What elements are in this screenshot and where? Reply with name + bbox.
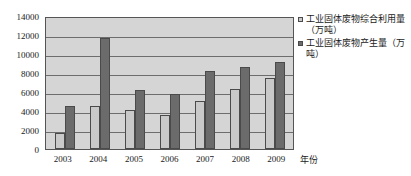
bar xyxy=(55,133,65,149)
y-axis-tick-label: 4000 xyxy=(21,108,39,117)
x-axis: 2003200420052006200720082009 xyxy=(45,153,294,169)
bars-layer xyxy=(46,18,293,149)
legend-swatch-icon xyxy=(298,41,303,46)
y-axis-tick-label: 12000 xyxy=(17,32,40,41)
bar-group xyxy=(187,18,222,149)
bar xyxy=(265,78,275,149)
y-axis-tick-label: 10000 xyxy=(17,51,40,60)
bar-group xyxy=(257,18,292,149)
y-axis-tick-label: 2000 xyxy=(21,127,39,136)
bar xyxy=(170,94,180,149)
legend-swatch-icon xyxy=(298,17,303,22)
bar xyxy=(160,115,170,149)
bar xyxy=(275,62,285,149)
legend-entry: 工业固体废物产生量（万吨） xyxy=(298,38,410,60)
bar xyxy=(135,90,145,149)
x-axis-tick-label: 2007 xyxy=(187,153,223,169)
bar-group xyxy=(47,18,82,149)
x-axis-tick-label: 2004 xyxy=(81,153,117,169)
y-axis-tick-label: 8000 xyxy=(21,70,39,79)
y-axis-tick-label: 0 xyxy=(35,146,40,155)
plot-area xyxy=(45,17,294,150)
x-axis-title: 年份 xyxy=(300,154,318,166)
bar xyxy=(125,110,135,149)
bar xyxy=(100,38,110,149)
bar xyxy=(90,106,100,149)
bar-group xyxy=(222,18,257,149)
bar-group xyxy=(117,18,152,149)
chart-legend: 工业固体废物综合利用量（万吨）工业固体废物产生量（万吨） xyxy=(298,14,410,62)
bar xyxy=(65,106,75,149)
y-axis: 02000400060008000100001200014000 xyxy=(0,0,44,176)
bar xyxy=(230,89,240,149)
x-axis-tick-label: 2009 xyxy=(258,153,294,169)
x-axis-tick-label: 2003 xyxy=(45,153,81,169)
bar-group xyxy=(152,18,187,149)
legend-label: 工业固体废物综合利用量（万吨） xyxy=(306,14,410,36)
x-axis-tick-label: 2005 xyxy=(116,153,152,169)
x-axis-tick-label: 2006 xyxy=(152,153,188,169)
legend-entry: 工业固体废物综合利用量（万吨） xyxy=(298,14,410,36)
bar xyxy=(195,101,205,149)
bar xyxy=(205,71,215,149)
y-axis-tick-label: 6000 xyxy=(21,89,39,98)
bar xyxy=(240,67,250,149)
y-axis-tick-label: 14000 xyxy=(17,13,40,22)
x-axis-tick-label: 2008 xyxy=(223,153,259,169)
bar-group xyxy=(82,18,117,149)
legend-label: 工业固体废物产生量（万吨） xyxy=(306,38,410,60)
bar-chart: 02000400060008000100001200014000 2003200… xyxy=(0,0,411,176)
